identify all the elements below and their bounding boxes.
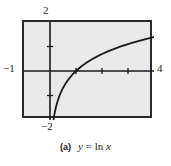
caption-tag: (a): [60, 142, 71, 152]
caption-eq-equals: =: [86, 140, 92, 152]
x-axis-right-label: 4: [157, 63, 163, 74]
y-axis-bottom-label: −2: [41, 121, 53, 132]
log-curve: [54, 37, 154, 120]
figure-container: 2 −2 −1 4 (a)y = ln x: [0, 0, 171, 166]
plot-canvas: [24, 22, 154, 120]
x-axis-left-label: −1: [3, 63, 15, 74]
plot-frame: [22, 20, 152, 118]
caption-eq-fn: ln: [95, 140, 104, 152]
caption-equation: y = ln x: [78, 140, 111, 152]
y-axis-top-label: 2: [43, 5, 49, 16]
caption-eq-y: y: [78, 140, 83, 152]
figure-caption: (a)y = ln x: [0, 140, 171, 152]
caption-eq-var: x: [106, 140, 111, 152]
